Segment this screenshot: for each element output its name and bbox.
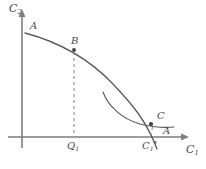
tick-label-q1-main: Q [67, 140, 75, 151]
point-label-a-bottom: A [163, 126, 170, 136]
y-axis-label: C2 [9, 3, 22, 16]
point-label-b: B [71, 36, 78, 46]
production-possibility-frontier-curve [25, 33, 157, 149]
tick-label-q1: Q1 [67, 141, 79, 152]
point-label-a-top: A [30, 21, 37, 31]
tick-label-c1-star-main: C [142, 140, 150, 151]
y-axis-label-sub: 2 [17, 8, 21, 16]
tick-label-c1-star: C1* [142, 141, 157, 152]
point-label-c: C [157, 111, 165, 121]
tick-label-c1-star-sup: * [154, 140, 158, 148]
tick-label-q1-sub: 1 [75, 145, 79, 152]
point-marker-c [149, 122, 153, 126]
ppf-indifference-diagram: C2 C1 A B C A Q1 C1* [0, 0, 206, 169]
x-axis-label: C1 [186, 144, 199, 157]
x-axis-arrowhead [181, 134, 189, 141]
point-marker-b [72, 48, 76, 52]
x-axis-label-sub: 1 [194, 149, 198, 157]
